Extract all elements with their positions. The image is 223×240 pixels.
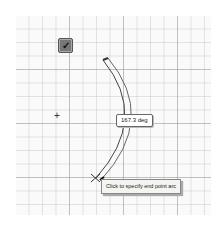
arc-start-handle [103, 58, 108, 60]
arc-angle-dimension[interactable]: 167.3 deg [116, 114, 153, 127]
tooltip: Click to specify end point arc [101, 179, 181, 194]
